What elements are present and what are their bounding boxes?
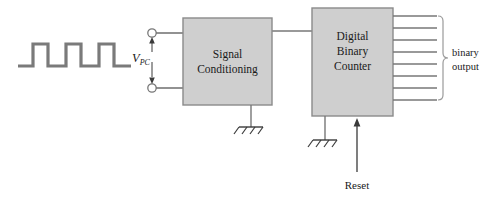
binary-output-label-line2: output (452, 61, 479, 72)
block-digital-binary-counter[interactable]: Digital Binary Counter (312, 8, 393, 116)
block-signal-conditioning-label-line1: Signal (213, 48, 242, 61)
ground-hatch (316, 140, 321, 147)
ground-hatch (308, 140, 313, 147)
voltage-label: VPC (132, 51, 151, 67)
input-terminal-bottom (148, 84, 156, 92)
ground-hatch (324, 140, 329, 147)
binary-output-label-line1: binary (452, 47, 480, 58)
voltage-arrow (149, 37, 155, 84)
reset-arrow-icon (354, 118, 361, 127)
block-signal-conditioning-label-line2: Conditioning (197, 63, 258, 76)
pulse-train-polyline (18, 44, 131, 66)
ground-hatch (234, 127, 239, 134)
binary-output-brace (438, 16, 448, 100)
pulse-train-waveform (18, 44, 131, 66)
block-signal-conditioning-body[interactable] (183, 18, 272, 105)
binary-output-bus-lines (393, 16, 437, 100)
block-diagram-figure: VPC Signal Conditioning Digital Binary C… (0, 0, 481, 204)
block-counter-label-line3: Counter (334, 60, 371, 72)
ground-hatch (332, 140, 337, 147)
ground-symbol-binary-counter (308, 116, 337, 147)
ground-hatch (242, 127, 247, 134)
voltage-arrow-head-down (149, 78, 155, 85)
input-terminal-top (148, 29, 156, 37)
reset-input-group: Reset (345, 118, 369, 191)
ground-hatch (258, 127, 263, 134)
block-counter-label-line2: Binary (337, 45, 369, 58)
diagram-canvas: VPC Signal Conditioning Digital Binary C… (0, 0, 481, 204)
ground-hatch (250, 127, 255, 134)
reset-label: Reset (345, 179, 369, 191)
voltage-arrow-head-up (149, 37, 155, 44)
input-terminal-group: VPC (132, 29, 156, 92)
ground-symbol-signal-conditioning (234, 105, 263, 134)
block-counter-label-line1: Digital (337, 30, 369, 43)
block-signal-conditioning[interactable]: Signal Conditioning (183, 18, 272, 105)
